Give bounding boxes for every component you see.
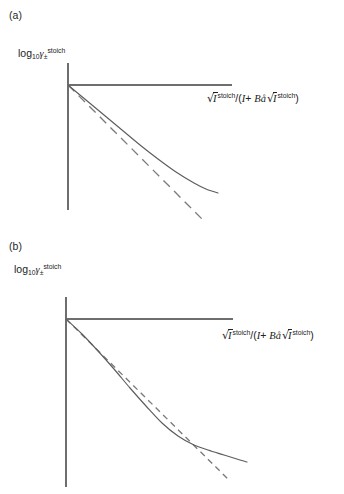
panel-a-xlabel-plus: + xyxy=(245,92,251,104)
panel-b-y-axis-label: log10γ±stoich xyxy=(14,264,61,276)
panel-b-plot xyxy=(0,240,344,494)
panel-b: (b) log10γ±stoich √Istoich/(I+ Bå√Istoic… xyxy=(0,240,344,494)
panel-b-ylabel-log: log xyxy=(14,263,28,275)
panel-a-xlabel-var1: I xyxy=(213,93,217,104)
panel-a-xlabel-close: ) xyxy=(295,92,299,104)
panel-a-experimental-curve xyxy=(68,85,218,193)
panel-b-xlabel-sup1: stoich xyxy=(233,329,251,336)
panel-a-x-axis-label: √Istoich/(I+ Bå√Istoich) xyxy=(206,92,299,105)
panel-b-xlabel-close: ) xyxy=(310,329,314,341)
panel-a-plot xyxy=(0,0,344,240)
panel-a-limiting-law-line xyxy=(68,85,205,222)
panel-a: (a) log10γ±stoich √Istoich/(I+ Bå√Istoic… xyxy=(0,0,344,240)
panel-a-xlabel-sup2: stoich xyxy=(277,92,295,99)
panel-a-ylabel-sup: stoich xyxy=(47,47,65,54)
panel-a-xlabel-var3: I xyxy=(273,93,277,104)
panel-b-experimental-curve xyxy=(66,319,247,462)
panel-a-ylabel-base: 10 xyxy=(32,53,40,60)
panel-b-x-axis-label: √Istoich/(I+ Bå√Istoich) xyxy=(221,329,314,342)
panel-b-xlabel-var1: I xyxy=(228,330,232,341)
panel-b-xlabel-sup2: stoich xyxy=(292,329,310,336)
panel-a-xlabel-sup1: stoich xyxy=(218,92,236,99)
panel-b-xlabel-var3: I xyxy=(288,330,292,341)
figure-container: (a) log10γ±stoich √Istoich/(I+ Bå√Istoic… xyxy=(0,0,344,494)
panel-a-ylabel-log: log xyxy=(18,47,32,59)
panel-a-y-axis-label: log10γ±stoich xyxy=(18,48,65,60)
panel-b-xlabel-plus: + xyxy=(260,329,266,341)
panel-b-ylabel-base: 10 xyxy=(28,269,36,276)
panel-b-ylabel-sup: stoich xyxy=(43,263,61,270)
